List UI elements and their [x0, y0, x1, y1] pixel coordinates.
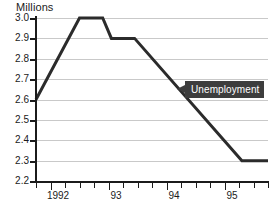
- x-tick-mark-major: [167, 183, 168, 190]
- x-tick-mark-major: [51, 183, 52, 190]
- x-tick-mark-minor: [239, 183, 240, 188]
- x-tick-label: 95: [226, 190, 237, 201]
- x-tick-mark-minor: [80, 183, 81, 188]
- x-tick-mark-minor: [123, 183, 124, 188]
- x-axis-ticks: 1992939495: [0, 0, 275, 205]
- x-tick-mark-major: [109, 183, 110, 190]
- unemployment-line-chart: Millions 3.02.92.82.72.62.52.42.32.2 199…: [0, 0, 275, 205]
- x-tick-mark-minor: [138, 183, 139, 188]
- x-tick-mark-minor: [94, 183, 95, 188]
- x-tick-label: 94: [168, 190, 179, 201]
- x-tick-mark-minor: [268, 183, 269, 188]
- x-tick-mark-minor: [181, 183, 182, 188]
- x-tick-label: 93: [110, 190, 121, 201]
- x-tick-mark-minor: [210, 183, 211, 188]
- x-tick-mark-minor: [254, 183, 255, 188]
- x-tick-mark-major: [225, 183, 226, 190]
- x-tick-mark-minor: [65, 183, 66, 188]
- x-tick-mark-minor: [196, 183, 197, 188]
- x-tick-mark-minor: [36, 183, 37, 188]
- callout-arrow-icon: [177, 85, 185, 93]
- x-tick-mark-minor: [152, 183, 153, 188]
- unemployment-callout-label: Unemployment: [185, 81, 264, 98]
- x-tick-label: 1992: [47, 190, 69, 201]
